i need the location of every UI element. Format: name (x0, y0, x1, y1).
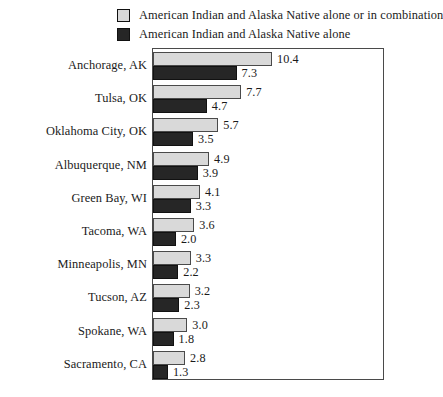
bar-light-6 (153, 218, 194, 232)
category-label-1: Anchorage, AK (0, 59, 147, 72)
legend-label-alone-or-in-combination: American Indian and Alaska Native alone … (139, 8, 443, 22)
bars-layer: 10.47.37.74.75.73.54.93.94.13.33.62.03.3… (153, 49, 384, 379)
bar-value-light-10: 2.8 (190, 351, 206, 365)
category-label-10: Sacramento, CA (0, 358, 147, 371)
chart-legend: American Indian and Alaska Native alone … (117, 6, 417, 44)
bar-value-light-3: 5.7 (223, 118, 239, 132)
bar-value-dark-7: 2.2 (183, 265, 199, 279)
bar-dark-5 (153, 199, 191, 213)
bar-value-dark-2: 4.7 (212, 99, 228, 113)
category-label-8: Tucson, AZ (0, 291, 147, 304)
bar-value-dark-6: 2.0 (181, 232, 197, 246)
bar-dark-1 (153, 66, 237, 80)
bar-dark-10 (153, 365, 168, 379)
legend-swatch-light-gray-icon (117, 9, 130, 22)
bar-value-light-9: 3.0 (192, 318, 208, 332)
bar-value-dark-5: 3.3 (196, 199, 212, 213)
bar-light-2 (153, 85, 241, 99)
bar-dark-9 (153, 332, 174, 346)
bar-light-8 (153, 284, 190, 298)
bar-value-dark-9: 1.8 (179, 332, 195, 346)
bar-value-light-6: 3.6 (199, 218, 215, 232)
bar-value-dark-4: 3.9 (203, 166, 219, 180)
bar-dark-8 (153, 298, 179, 312)
bar-dark-3 (153, 132, 193, 146)
bar-value-light-1: 10.4 (277, 52, 299, 66)
legend-label-alone: American Indian and Alaska Native alone (139, 27, 350, 41)
bar-light-9 (153, 318, 187, 332)
category-label-4: Albuquerque, NM (0, 159, 147, 172)
bar-dark-4 (153, 166, 198, 180)
bar-light-5 (153, 185, 200, 199)
legend-item-alone-or-in-combination: American Indian and Alaska Native alone … (117, 6, 417, 24)
bar-value-light-2: 7.7 (246, 85, 262, 99)
category-label-3: Oklahoma City, OK (0, 125, 147, 138)
bar-value-light-7: 3.3 (196, 251, 212, 265)
bar-light-7 (153, 251, 191, 265)
bar-value-light-8: 3.2 (195, 284, 211, 298)
bar-value-dark-1: 7.3 (242, 66, 258, 80)
bar-light-3 (153, 118, 218, 132)
bar-light-4 (153, 152, 209, 166)
legend-item-alone: American Indian and Alaska Native alone (117, 25, 417, 43)
category-label-7: Minneapolis, MN (0, 258, 147, 271)
bar-value-dark-3: 3.5 (198, 132, 214, 146)
category-label-2: Tulsa, OK (0, 92, 147, 105)
bar-dark-6 (153, 232, 176, 246)
category-label-5: Green Bay, WI (0, 192, 147, 205)
bar-value-dark-10: 1.3 (173, 365, 189, 379)
category-axis: Anchorage, AKTulsa, OKOklahoma City, OKA… (0, 48, 147, 380)
bar-value-light-5: 4.1 (205, 185, 221, 199)
bar-dark-2 (153, 99, 207, 113)
bar-light-10 (153, 351, 185, 365)
bar-dark-7 (153, 265, 178, 279)
bar-value-light-4: 4.9 (214, 152, 230, 166)
bar-light-1 (153, 52, 272, 66)
bar-value-dark-8: 2.3 (184, 298, 200, 312)
category-label-6: Tacoma, WA (0, 225, 147, 238)
legend-swatch-dark-icon (117, 28, 130, 41)
category-label-9: Spokane, WA (0, 325, 147, 338)
